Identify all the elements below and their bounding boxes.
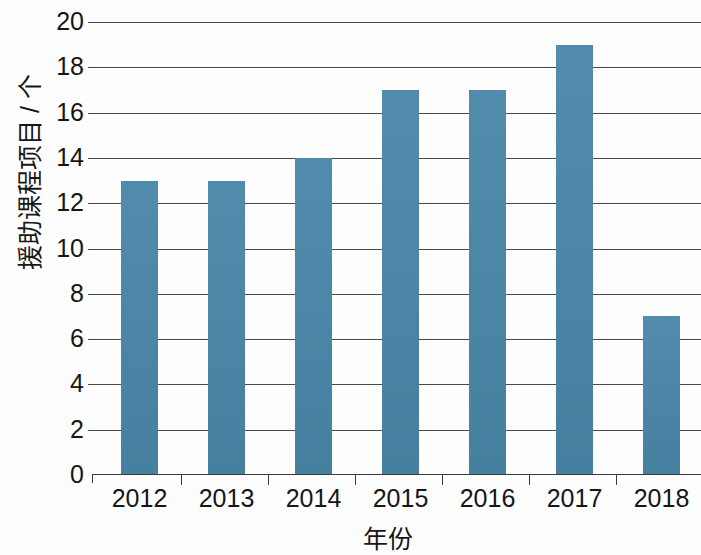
y-axis-tick-label: 16: [28, 100, 84, 125]
y-axis-tick-label: 14: [28, 145, 84, 170]
x-axis-tick: [268, 474, 269, 485]
y-axis-tick-label: 18: [28, 54, 84, 79]
x-axis-tick-label: 2016: [438, 485, 538, 513]
x-axis-line: [92, 474, 701, 475]
bar: [469, 90, 506, 475]
bar-chart-figure: 援助课程项目 / 个 20181614121086420 20122013201…: [0, 0, 701, 555]
y-axis-tick-label: 12: [28, 190, 84, 215]
y-axis-tick-label: 2: [28, 417, 84, 442]
y-axis-tick-label: 10: [28, 236, 84, 261]
y-axis-tick-label: 8: [28, 281, 84, 306]
x-axis-title-text: 年份: [289, 519, 413, 555]
bar: [382, 90, 419, 475]
x-axis-tick: [181, 474, 182, 485]
gridline: [88, 67, 701, 68]
bar: [121, 181, 158, 475]
x-axis-tick: [355, 474, 356, 485]
x-axis-tick-label: 2013: [177, 485, 277, 513]
x-axis-tick: [529, 474, 530, 485]
x-axis-tick-label: 2015: [351, 485, 451, 513]
bar: [295, 158, 332, 475]
x-axis-tick-label: 2012: [90, 485, 190, 513]
x-axis-tick-label: 2018: [612, 485, 701, 513]
y-axis-tick-label: 0: [28, 462, 84, 487]
y-axis-tick-label: 6: [28, 326, 84, 351]
y-axis-tick-label: 4: [28, 371, 84, 396]
plot-area: [92, 22, 701, 475]
gridline: [88, 22, 701, 23]
bar: [643, 316, 680, 475]
x-axis-tick: [442, 474, 443, 485]
x-axis-origin-tick: [92, 474, 93, 483]
y-axis-tick-label-group: 20181614121086420: [28, 0, 84, 500]
bar: [208, 181, 245, 475]
x-axis-tick-label: 2014: [264, 485, 364, 513]
y-axis-tick-label: 20: [28, 9, 84, 34]
bar: [556, 45, 593, 475]
x-axis-tick: [616, 474, 617, 485]
x-axis-tick-label: 2017: [525, 485, 625, 513]
x-axis-title: 年份: [0, 519, 701, 555]
